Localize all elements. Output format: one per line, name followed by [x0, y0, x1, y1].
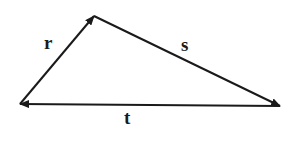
triangle-svg: [0, 0, 298, 147]
vector-r-arrow: [20, 16, 94, 104]
vector-t-label: t: [124, 108, 130, 127]
vector-triangle-diagram: r s t: [0, 0, 298, 147]
vector-s-label: s: [181, 35, 188, 54]
vector-t-arrow: [20, 104, 280, 106]
vector-s-arrow: [94, 16, 280, 106]
vector-r-label: r: [44, 33, 52, 52]
